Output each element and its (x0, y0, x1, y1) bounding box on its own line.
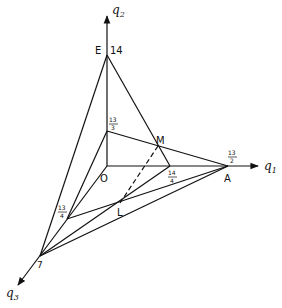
diagram-canvas: q2 q1 q3 E 14 O A M L 7 13 3 13 2 14 4 1… (0, 0, 282, 308)
point-O-label: O (100, 173, 108, 184)
svg-text:13: 13 (58, 204, 66, 211)
tick-13over3: 13 3 (109, 116, 118, 131)
svg-text:13: 13 (228, 149, 236, 156)
edge-13over4-A (67, 166, 228, 219)
tick-14over4: 14 4 (168, 169, 177, 184)
svg-text:13: 13 (109, 116, 117, 123)
tick-13over2: 13 2 (228, 149, 237, 164)
point-M-label: M (156, 135, 165, 146)
svg-text:4: 4 (170, 177, 174, 184)
tick-7-label: 7 (37, 260, 43, 270)
edge-E-7 (40, 55, 107, 256)
svg-text:4: 4 (60, 212, 64, 219)
edge-7-A (40, 166, 228, 256)
q3-axis (18, 166, 107, 285)
svg-text:2: 2 (230, 157, 234, 164)
q2-axis-label: q2 (112, 3, 125, 19)
tick-13over4: 13 4 (58, 204, 67, 219)
point-A-label: A (224, 173, 231, 184)
q1-axis-label: q1 (264, 159, 277, 175)
point-L-label: L (117, 207, 123, 218)
polytope-diagram: q2 q1 q3 E 14 O A M L 7 13 3 13 2 14 4 1… (0, 0, 282, 308)
svg-text:14: 14 (168, 169, 176, 176)
edge-E-14over4 (107, 55, 170, 166)
edge-M-L-dashed (120, 146, 158, 203)
q3-axis-label: q3 (6, 286, 19, 302)
svg-text:3: 3 (111, 124, 115, 131)
tick-14-label: 14 (110, 45, 123, 56)
point-E-label: E (95, 45, 101, 56)
